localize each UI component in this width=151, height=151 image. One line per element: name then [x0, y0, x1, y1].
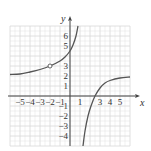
x-tick-label: −2: [45, 97, 55, 107]
open-circle-hole: [48, 64, 52, 68]
annotations: [48, 64, 52, 68]
x-tick-label: −5: [15, 97, 25, 107]
function-graph: −5−4−3−2−1134565321−1−2−3−4 x y: [0, 0, 151, 151]
y-tick-label: 1: [64, 81, 69, 91]
x-tick-label: −4: [25, 97, 35, 107]
y-axis-label: y: [60, 13, 66, 24]
y-tick-label: 6: [64, 31, 69, 41]
x-tick-label: 3: [98, 97, 103, 107]
y-tick-label: 2: [64, 71, 69, 81]
x-tick-label: 5: [118, 97, 123, 107]
y-tick-label: −1: [58, 101, 68, 111]
x-axis-label: x: [139, 97, 145, 108]
y-tick-label: −2: [58, 111, 68, 121]
x-tick-label: −3: [35, 97, 45, 107]
x-tick-label: 4: [108, 97, 113, 107]
x-tick-label: 1: [78, 97, 83, 107]
y-tick-label: −3: [58, 121, 68, 131]
y-tick-label: 5: [64, 41, 69, 51]
y-tick-label: 3: [64, 61, 69, 71]
y-tick-label: −4: [58, 131, 68, 141]
